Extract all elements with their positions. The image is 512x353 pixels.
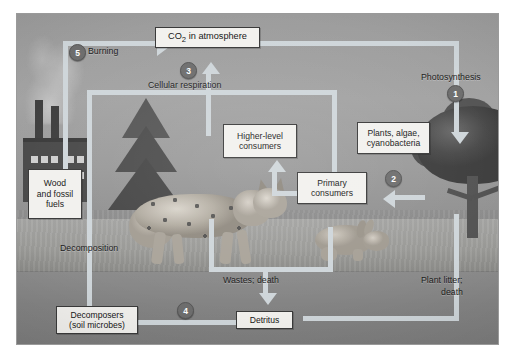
wastes-line-rabbit — [328, 227, 333, 269]
higher-line-1: Higher-level — [237, 131, 283, 142]
label-decomposition: Decomposition — [60, 243, 118, 254]
label-plant-litter-2: death — [441, 287, 463, 298]
carbon-cycle-figure: CO2 in atmosphere Wood and fossil fuels … — [0, 0, 512, 353]
plant-litter-vertical — [454, 214, 459, 318]
rabbit-illustration — [313, 219, 395, 265]
label-burning: Burning — [88, 46, 118, 57]
label-plant-litter-1: Plant litter; — [421, 275, 463, 286]
smokestack-icon — [51, 106, 59, 142]
box-wood-and-fossil-fuels[interactable]: Wood and fossil fuels — [28, 169, 82, 219]
detritus-to-decomposers-line — [137, 320, 237, 325]
respiration-bus-horizontal — [87, 90, 337, 95]
illustration-frame: CO2 in atmosphere Wood and fossil fuels … — [16, 13, 499, 345]
respiration-bus-left-leg — [87, 90, 92, 212]
badge-2-consumption[interactable]: 2 — [385, 170, 402, 187]
respiration-bus-right-leg — [332, 90, 337, 182]
badge-1-photosynthesis[interactable]: 1 — [447, 85, 464, 102]
label-photosynthesis: Photosynthesis — [421, 72, 481, 83]
decomposition-line — [87, 212, 92, 320]
wastes-bus — [209, 267, 333, 272]
producer-to-consumer-arrowhead — [383, 190, 395, 208]
plant-litter-horizontal — [303, 316, 459, 321]
wood-line-2: and fossil — [37, 189, 73, 200]
box-co2-label: CO2 in atmosphere — [168, 31, 247, 45]
decomposers-line-2: (soil microbes) — [69, 320, 125, 331]
photosynthesis-arrow-horizontal — [260, 41, 459, 46]
label-wastes-death: Wastes; death — [223, 275, 279, 286]
wastes-arrowhead — [259, 293, 277, 305]
photosynthesis-arrowhead — [451, 132, 469, 144]
badge-3-cellular-respiration[interactable]: 3 — [180, 62, 197, 79]
detritus-label: Detritus — [250, 315, 280, 326]
consumer-transfer-arrowhead — [268, 160, 286, 172]
primary-line-2: consumers — [311, 188, 353, 199]
respiration-feeder-consumers — [206, 90, 211, 136]
wood-line-1: Wood — [44, 178, 66, 189]
box-detritus[interactable]: Detritus — [236, 311, 293, 329]
primary-line-1: Primary — [317, 178, 347, 189]
plants-line-1: Plants, algae, — [367, 128, 419, 139]
plants-line-2: cyanobacteria — [367, 138, 421, 149]
box-plants-algae-cyanobacteria[interactable]: Plants, algae, cyanobacteria — [357, 122, 430, 154]
respiration-arrowhead — [202, 62, 220, 74]
box-decomposers[interactable]: Decomposers (soil microbes) — [56, 306, 138, 334]
label-cellular-respiration: Cellular respiration — [148, 80, 221, 91]
box-higher-level-consumers[interactable]: Higher-level consumers — [223, 124, 297, 158]
smokestack-icon — [35, 100, 43, 142]
wastes-line-lynx — [209, 219, 214, 269]
badge-5-burning[interactable]: 5 — [69, 44, 86, 61]
higher-line-2: consumers — [239, 141, 281, 152]
box-co2-in-atmosphere[interactable]: CO2 in atmosphere — [155, 27, 260, 48]
wood-line-3: fuels — [46, 199, 64, 210]
badge-4-decomposition[interactable]: 4 — [177, 302, 194, 319]
decomposers-line-1: Decomposers — [70, 310, 123, 321]
box-primary-consumers[interactable]: Primary consumers — [297, 172, 367, 204]
producer-to-consumer-line — [395, 195, 425, 200]
